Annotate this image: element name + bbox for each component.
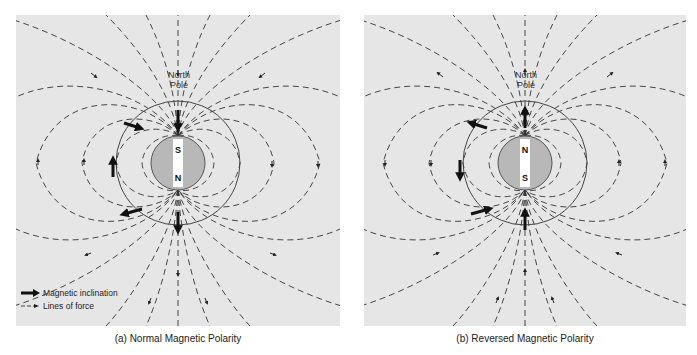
caption-normal-polarity: (a) Normal Magnetic Polarity — [13, 333, 343, 344]
field-lines-diagram-b: N S — [364, 15, 686, 326]
svg-text:N: N — [522, 145, 529, 155]
svg-text:S: S — [522, 173, 528, 183]
reversed-polarity-panel: N S North Pole — [364, 15, 686, 326]
dashed-arrow-icon — [20, 302, 40, 310]
svg-text:N: N — [175, 173, 182, 183]
north-pole-label: North Pole — [506, 70, 546, 90]
thick-arrow-icon — [20, 289, 40, 297]
legend-item-lines: Lines of force — [20, 299, 118, 312]
field-lines-diagram-a: S N — [16, 15, 340, 326]
caption-reversed-polarity: (b) Reversed Magnetic Polarity — [360, 333, 690, 344]
north-pole-label: North Pole — [159, 70, 199, 90]
svg-text:S: S — [175, 145, 181, 155]
legend: Magnetic inclination Lines of force — [20, 286, 118, 312]
legend-item-inclination: Magnetic inclination — [20, 286, 118, 299]
normal-polarity-panel: S N North Pole Magnetic inclination Line… — [16, 15, 340, 326]
